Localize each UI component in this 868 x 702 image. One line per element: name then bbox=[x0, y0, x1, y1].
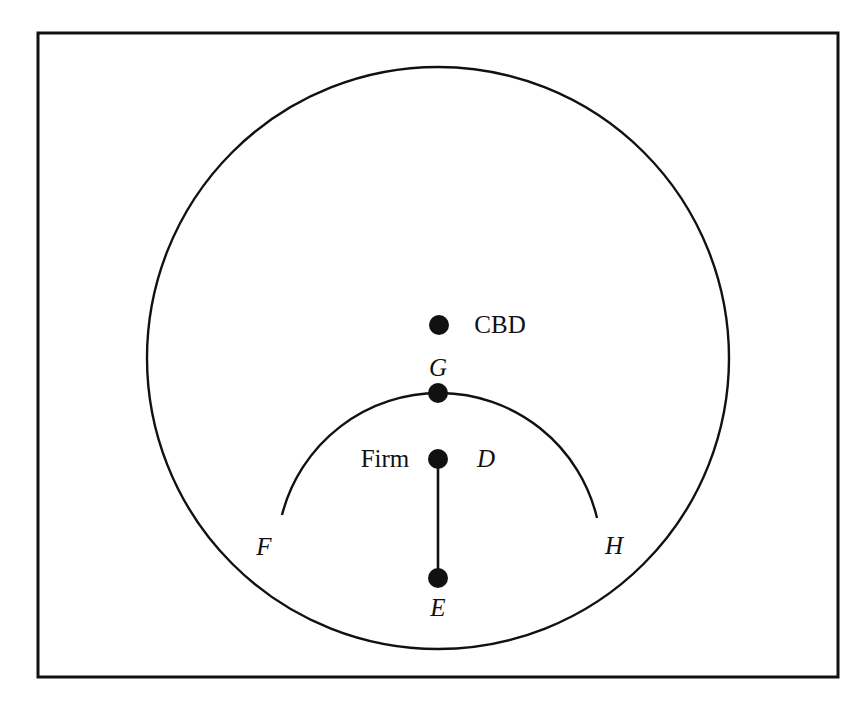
point-marker-g bbox=[428, 383, 448, 403]
point-marker-e bbox=[428, 568, 448, 588]
diagram-canvas bbox=[0, 0, 868, 702]
point-marker-d bbox=[428, 449, 448, 469]
point-marker-cbd bbox=[429, 315, 449, 335]
figure-root: Firm CBD G D E F H bbox=[0, 0, 868, 702]
